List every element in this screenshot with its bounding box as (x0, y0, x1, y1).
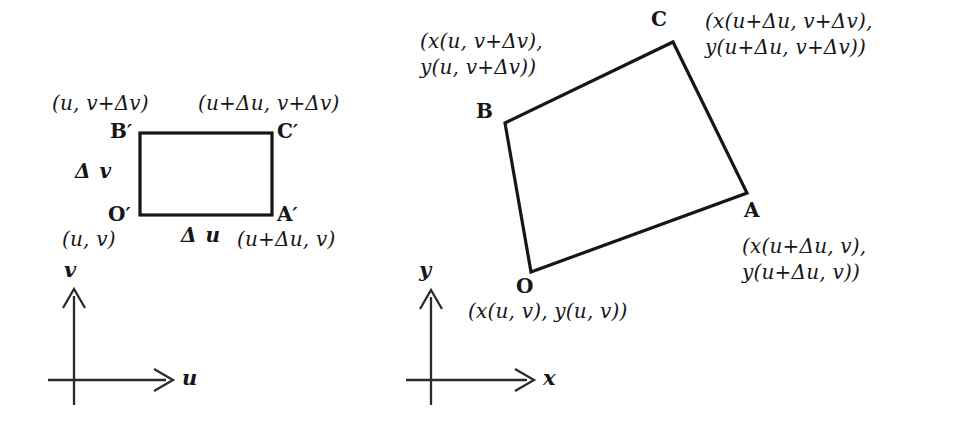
figure-canvas: (u, v+Δv) (u+Δu, v+Δv) B′ C′ O′ A′ Δ v Δ… (0, 0, 972, 428)
xy-axes-svg (0, 0, 972, 428)
x-axis-label: x (543, 366, 556, 391)
y-axis-label: y (419, 258, 431, 283)
